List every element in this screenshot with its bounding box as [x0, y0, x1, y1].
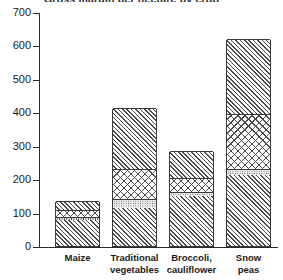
x-axis-label-line: Snow: [212, 252, 283, 264]
bar-segment-diagonal-hatch: [170, 196, 213, 246]
y-axis-tick: [33, 180, 39, 181]
bar-segment-diagonal-hatch: [170, 151, 213, 178]
bar-segment-cross-hatch: [113, 169, 156, 199]
y-axis-tick: [33, 46, 39, 47]
y-axis-tick-label: 500: [1, 74, 31, 85]
chart-title: Gross margin per hectare by crop: [44, 0, 274, 2]
y-axis-tick-label-wrap: 700: [0, 7, 31, 18]
y-axis-tick-label: 400: [1, 107, 31, 118]
y-axis-tick-label: 700: [1, 7, 31, 18]
bar-segment-diagonal-hatch: [56, 220, 99, 246]
bar-segment-dotted: [56, 217, 99, 220]
y-axis-tick-label: 600: [1, 40, 31, 51]
bar-segment-diagonal-hatch: [227, 175, 270, 246]
bar-segment-diagonal-hatch: [113, 208, 156, 246]
y-axis-tick: [33, 147, 39, 148]
y-axis-tick-label: 200: [1, 174, 31, 185]
bar-broccoli-cauliflower[interactable]: [169, 152, 214, 247]
y-axis-tick-label: 300: [1, 141, 31, 152]
bar-segment-cross-hatch: [227, 114, 270, 169]
x-axis-label-line: peas: [212, 264, 283, 276]
bar-maize[interactable]: [55, 202, 100, 247]
y-axis-tick: [33, 113, 39, 114]
bar-segment-diagonal-hatch: [56, 201, 99, 210]
y-axis-tick-label: 100: [1, 208, 31, 219]
bar-segment-cross-hatch: [170, 178, 213, 192]
bar-segment-diagonal-hatch: [113, 108, 156, 169]
y-axis-tick: [33, 80, 39, 81]
bar-segment-cross-hatch: [56, 210, 99, 217]
bar-segment-dotted: [113, 199, 156, 207]
y-axis-tick-label-wrap: 0: [0, 241, 31, 252]
y-axis-tick-label-wrap: 500: [0, 74, 31, 85]
bar-traditional-vegetables[interactable]: [112, 109, 157, 247]
y-axis-tick-label-wrap: 100: [0, 208, 31, 219]
y-axis-tick-label-wrap: 400: [0, 107, 31, 118]
y-axis-tick-label-wrap: 300: [0, 141, 31, 152]
x-axis-label-3: Snowpeas: [212, 252, 283, 275]
bar-segment-dotted: [227, 169, 270, 175]
y-axis-tick-label-wrap: 600: [0, 40, 31, 51]
y-axis-tick: [33, 247, 39, 248]
y-axis-tick: [33, 214, 39, 215]
bar-segment-dotted: [170, 192, 213, 196]
plot-area: [40, 13, 278, 247]
bar-snow-peas[interactable]: [226, 40, 271, 247]
stacked-bar-chart: Gross margin per hectare by crop 0100200…: [0, 0, 283, 280]
x-axis-line: [39, 247, 278, 248]
y-axis-tick: [33, 13, 39, 14]
y-axis-tick-label: 0: [1, 241, 31, 252]
y-axis-tick-label-wrap: 200: [0, 174, 31, 185]
bar-segment-diagonal-hatch: [227, 39, 270, 115]
